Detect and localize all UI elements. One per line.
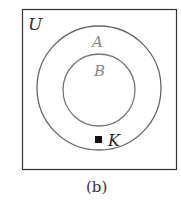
venn-diagram: U A B K (b) [0,0,181,200]
caption: (b) [86,178,107,196]
point-k-marker [95,136,102,143]
set-b-label: B [93,62,105,80]
point-k-label: K [107,131,121,150]
set-a-label: A [90,33,103,51]
universe-label: U [28,14,43,34]
